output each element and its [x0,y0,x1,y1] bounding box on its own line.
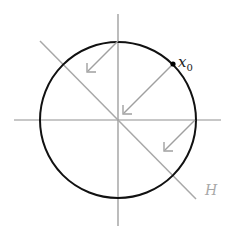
arrow-right [165,120,195,150]
hyperplane-label: H [205,182,217,198]
arrow-x0 [124,66,171,113]
x0-label: x0 [178,53,193,73]
point-x0 [170,61,175,66]
diagram-canvas [0,0,233,237]
unit-circle-diagram: x0 H [0,0,233,237]
